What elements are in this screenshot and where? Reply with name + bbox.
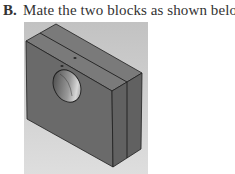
top-hole-2 (60, 65, 63, 67)
mated-blocks-figure (24, 22, 148, 174)
block-render (24, 22, 148, 174)
step-label: B. (3, 2, 17, 18)
step-instruction: B.Mate the two blocks as shown below. (3, 2, 235, 19)
step-text: Mate the two blocks as shown below. (23, 2, 235, 18)
top-hole-1 (73, 57, 76, 59)
